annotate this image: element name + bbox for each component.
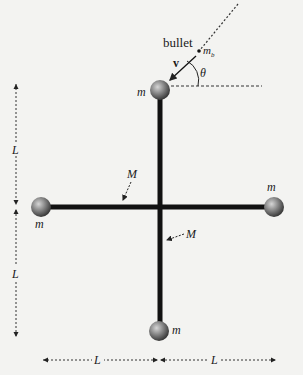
- arrow-left-icon: [43, 358, 48, 363]
- bullet-label: bullet: [163, 35, 193, 50]
- bullet-mass-label: mb: [203, 44, 215, 59]
- cross-rod-diagram: m m m m bullet mb v θ M M L L L L: [0, 0, 303, 375]
- mass-right-label: m: [267, 180, 276, 194]
- rod-mass-lower-label: M: [185, 227, 197, 241]
- arrow-down-icon: [14, 200, 19, 205]
- rod-mass-lower-pointer: [167, 234, 184, 240]
- length-bottom-left-label: L: [93, 353, 101, 367]
- length-left-upper-label: L: [11, 143, 19, 157]
- ball-top: [150, 80, 170, 100]
- velocity-label: v: [173, 56, 179, 70]
- arrow-up-icon: [14, 84, 19, 89]
- bullet-dot: [197, 49, 201, 53]
- angle-arc: [187, 61, 199, 86]
- arrow-right-icon: [271, 358, 276, 363]
- length-bottom-right-label: L: [210, 353, 218, 367]
- mass-left-label: m: [35, 217, 44, 231]
- ball-left: [31, 197, 51, 217]
- mass-top-label: m: [137, 85, 146, 99]
- angle-label: θ: [200, 66, 206, 80]
- diagram: m m m m bullet mb v θ M M L L L L: [0, 0, 303, 375]
- mass-bottom-label: m: [172, 323, 181, 337]
- ball-bottom: [149, 321, 169, 341]
- rod-mass-upper-pointer: [123, 182, 131, 200]
- ball-right: [264, 197, 284, 217]
- rod-mass-upper-label: M: [126, 167, 138, 181]
- arrow-left-icon: [160, 358, 165, 363]
- arrow-down-icon: [14, 332, 19, 337]
- length-left-lower-label: L: [11, 267, 19, 281]
- arrow-right-icon: [153, 358, 158, 363]
- arrow-up-icon: [14, 209, 19, 214]
